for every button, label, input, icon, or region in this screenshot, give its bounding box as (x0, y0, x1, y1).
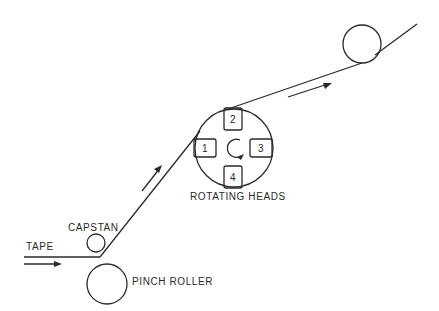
tape-label: TAPE (26, 241, 54, 252)
guide-roller (343, 25, 381, 63)
head-2-label: 2 (230, 114, 236, 125)
tape-line-out (375, 24, 417, 55)
pinch-roller (87, 264, 127, 304)
head-4-label: 4 (230, 172, 236, 183)
capstan (87, 234, 105, 252)
tape-line-to-drum (100, 131, 200, 257)
tape-path-diagram: 1 2 3 4 (0, 0, 439, 311)
rotation-arrow-icon (227, 139, 241, 157)
tape-line-to-guide (225, 63, 362, 110)
head-3-label: 3 (258, 143, 264, 154)
rotating-heads-label: ROTATING HEADS (190, 191, 286, 202)
capstan-label: CAPSTAN (68, 222, 119, 233)
pinch-roller-label: PINCH ROLLER (132, 276, 213, 287)
head-1-label: 1 (202, 143, 208, 154)
